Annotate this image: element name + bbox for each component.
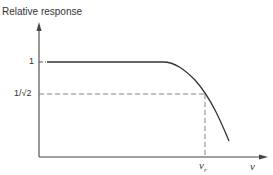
y-tick-1: 1: [29, 56, 34, 66]
nu-subscript: r: [204, 166, 207, 174]
x-tick-nu-r: νr: [199, 159, 207, 174]
x-axis-arrow-icon: [259, 155, 268, 160]
response-chart: [0, 0, 273, 175]
y-axis-arrow-icon: [37, 22, 42, 31]
x-axis-label: ν: [250, 160, 255, 172]
response-curve: [47, 62, 229, 141]
y-tick-half-power: 1/√2: [14, 88, 31, 98]
